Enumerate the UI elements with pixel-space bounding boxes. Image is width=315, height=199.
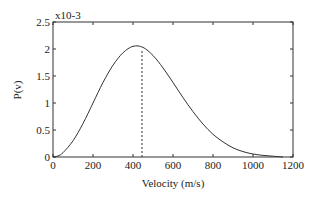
x-tick-label: 1200 [282, 159, 305, 171]
chart: 020040060080010001200 00.511.522.5 x10-3… [0, 0, 315, 199]
y-tick-label: 2 [45, 43, 51, 55]
y-tick-label: 1.5 [36, 70, 50, 82]
y-tick-label: 0.5 [36, 124, 50, 136]
x-tick-label: 200 [85, 159, 102, 171]
x-axis-label: Velocity (m/s) [142, 177, 205, 190]
x-tick-labels: 020040060080010001200 [50, 159, 304, 171]
x-tick-label: 600 [165, 159, 182, 171]
distribution-curve [53, 46, 283, 157]
y-axis-label: P(v) [11, 80, 24, 99]
x-tick-label: 1000 [242, 159, 265, 171]
y-scale-label: x10-3 [55, 9, 81, 21]
x-tick-label: 400 [125, 159, 142, 171]
axis-ticks [53, 22, 293, 157]
plot-frame [53, 22, 293, 157]
y-tick-labels: 00.511.522.5 [36, 16, 50, 163]
y-tick-label: 0 [45, 151, 51, 163]
y-tick-label: 2.5 [36, 16, 50, 28]
y-tick-label: 1 [45, 97, 51, 109]
plot-border [53, 22, 293, 157]
x-tick-label: 0 [50, 159, 56, 171]
x-tick-label: 800 [205, 159, 222, 171]
